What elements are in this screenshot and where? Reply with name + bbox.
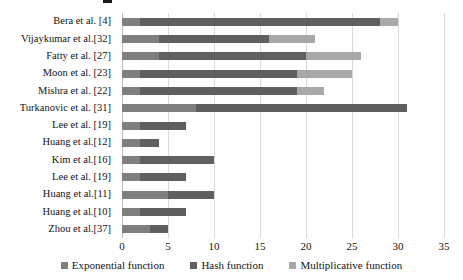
legend-label: Multiplicative function	[300, 260, 402, 271]
bar-segment-exponential	[122, 87, 140, 95]
x-tick-label: 20	[301, 241, 312, 252]
stacked-bar	[122, 173, 444, 181]
category-label: Moon et al. [23]	[0, 68, 116, 79]
bar-segment-exponential	[122, 70, 140, 78]
stacked-bar	[122, 225, 444, 233]
cropped-title-fragment	[103, 0, 112, 3]
bar-segment-hash	[140, 208, 186, 216]
legend-label: Exponential function	[72, 260, 165, 271]
stacked-bar	[122, 52, 444, 60]
category-label: Huang et al.[12]	[0, 137, 116, 148]
bar-row	[122, 48, 444, 65]
bar-segment-hash	[168, 191, 214, 199]
stacked-bar-chart: Bera et al. [4]Vijaykumar et al.[32]Fatt…	[0, 0, 463, 280]
stacked-bar	[122, 87, 444, 95]
legend-item: Hash function	[190, 260, 263, 271]
category-label: Fatty et al. [27]	[0, 51, 116, 62]
stacked-bar	[122, 208, 444, 216]
x-axis: 05101520253035	[122, 241, 444, 255]
category-labels: Bera et al. [4]Vijaykumar et al.[32]Fatt…	[0, 13, 116, 238]
x-tick-label: 25	[347, 241, 358, 252]
bar-segment-hash	[159, 52, 306, 60]
bar-row	[122, 65, 444, 82]
legend-swatch-icon	[61, 262, 68, 269]
x-tick-label: 5	[165, 241, 171, 252]
x-tick-label: 10	[209, 241, 220, 252]
bar-segment-multiplicative	[306, 52, 361, 60]
bar-segment-hash	[140, 173, 186, 181]
bar-row	[122, 82, 444, 99]
x-tick-label: 0	[119, 241, 125, 252]
bar-row	[122, 100, 444, 117]
bar-segment-hash	[140, 156, 214, 164]
bar-segment-exponential	[122, 156, 140, 164]
legend: Exponential functionHash functionMultipl…	[0, 260, 463, 271]
bar-row	[122, 152, 444, 169]
bar-segment-exponential	[122, 225, 150, 233]
legend-label: Hash function	[201, 260, 263, 271]
x-tick-label: 35	[439, 241, 450, 252]
bar-segment-exponential	[122, 208, 140, 216]
bars-area	[122, 13, 444, 238]
stacked-bar	[122, 191, 444, 199]
bar-segment-exponential	[122, 35, 159, 43]
bar-segment-hash	[150, 225, 168, 233]
bar-segment-hash	[196, 104, 408, 112]
category-label: Mishra et al. [22]	[0, 86, 116, 97]
bar-row	[122, 117, 444, 134]
category-label: Zhou et al.[37]	[0, 224, 116, 235]
stacked-bar	[122, 139, 444, 147]
bar-row	[122, 169, 444, 186]
bar-segment-multiplicative	[269, 35, 315, 43]
stacked-bar	[122, 156, 444, 164]
bar-segment-exponential	[122, 18, 140, 26]
bar-segment-exponential	[122, 122, 140, 130]
bar-segment-exponential	[122, 104, 196, 112]
bar-row	[122, 203, 444, 220]
legend-swatch-icon	[289, 262, 296, 269]
category-label: Turkanovic et al. [31]	[0, 103, 116, 114]
bar-row	[122, 30, 444, 47]
plot-area	[122, 13, 444, 238]
stacked-bar	[122, 104, 444, 112]
bar-segment-multiplicative	[297, 70, 352, 78]
legend-swatch-icon	[190, 262, 197, 269]
bar-segment-hash	[140, 87, 296, 95]
bar-segment-exponential	[122, 52, 159, 60]
bar-row	[122, 221, 444, 238]
legend-item: Multiplicative function	[289, 260, 402, 271]
stacked-bar	[122, 18, 444, 26]
stacked-bar	[122, 122, 444, 130]
bar-segment-exponential	[122, 191, 168, 199]
stacked-bar	[122, 70, 444, 78]
bar-segment-hash	[140, 18, 379, 26]
category-label: Huang et al.[10]	[0, 207, 116, 218]
bar-row	[122, 134, 444, 151]
category-label: Kim et al.[16]	[0, 155, 116, 166]
legend-item: Exponential function	[61, 260, 165, 271]
bar-row	[122, 186, 444, 203]
stacked-bar	[122, 35, 444, 43]
bar-segment-hash	[140, 139, 158, 147]
bar-segment-multiplicative	[297, 87, 325, 95]
gridline	[444, 13, 445, 238]
category-label: Lee et al. [19]	[0, 120, 116, 131]
bar-segment-hash	[159, 35, 269, 43]
bar-row	[122, 13, 444, 30]
category-label: Bera et al. [4]	[0, 16, 116, 27]
bar-segment-hash	[140, 70, 296, 78]
bar-segment-exponential	[122, 139, 140, 147]
category-label: Vijaykumar et al.[32]	[0, 34, 116, 45]
category-label: Lee et al. [19]	[0, 172, 116, 183]
bar-segment-exponential	[122, 173, 140, 181]
category-label: Huang et al.[11]	[0, 189, 116, 200]
x-tick-label: 30	[393, 241, 404, 252]
x-tick-label: 15	[255, 241, 266, 252]
bar-segment-multiplicative	[380, 18, 398, 26]
bar-segment-hash	[140, 122, 186, 130]
